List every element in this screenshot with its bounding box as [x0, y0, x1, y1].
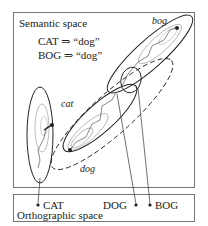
semantic-space-title: Semantic space [19, 17, 87, 29]
cat-word-point [36, 203, 39, 206]
cat-region: cat [27, 87, 73, 183]
mapping-cat: CAT ⇒ “dog” [38, 35, 100, 47]
dog-word-point [134, 203, 137, 206]
cat-connector [38, 178, 40, 204]
dog-region: dog [39, 46, 185, 183]
bog-ellipse [99, 6, 201, 102]
bog-region: bog [99, 6, 201, 102]
cat-region-label: cat [61, 98, 73, 109]
cat-attractor-point [50, 123, 54, 127]
dog-dashed-ellipse [39, 46, 185, 183]
orthographic-space-title: Orthographic space [17, 209, 103, 221]
dog-attractor-point [68, 148, 72, 152]
bog-word-point [148, 203, 151, 206]
orth-word-dog: DOG [103, 199, 127, 211]
mapping-bog: BOG ⇒ “dog” [38, 49, 102, 61]
diagram: Semantic space CAT ⇒ “dog” BOG ⇒ “dog” d… [0, 0, 208, 226]
dog-region-label: dog [80, 163, 95, 174]
bog-attractor-point [175, 26, 179, 30]
orth-word-bog: BOG [155, 199, 178, 211]
bog-region-label: bog [152, 15, 167, 26]
